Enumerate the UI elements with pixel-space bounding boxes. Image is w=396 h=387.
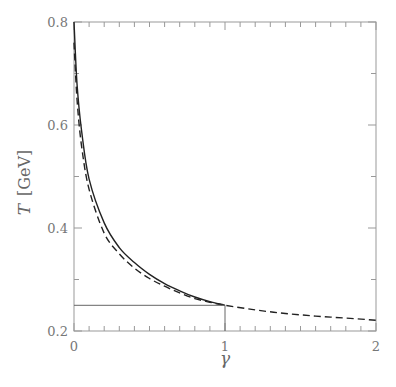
plot-frame — [74, 22, 376, 331]
y-tick-label: 0.6 — [47, 118, 68, 133]
plot-border — [74, 22, 376, 331]
y-tick-label: 0.2 — [47, 324, 68, 339]
x-tick-label: 0 — [70, 339, 78, 354]
dashed-curve — [74, 43, 376, 321]
y-axis-label: T [GeV] — [14, 150, 34, 216]
x-axis-label: γ — [220, 348, 231, 368]
y-tick-label: 0.4 — [47, 221, 68, 236]
chart: 0120.20.40.60.8 γ T [GeV] — [0, 0, 396, 387]
solid-curve — [74, 22, 225, 305]
x-tick-label: 2 — [372, 339, 380, 354]
y-tick-label: 0.8 — [47, 15, 68, 30]
data-series — [74, 22, 376, 331]
axis-ticks — [74, 22, 376, 331]
y-axis-symbol: T — [14, 202, 34, 215]
y-axis-unit: [GeV] — [15, 150, 34, 196]
